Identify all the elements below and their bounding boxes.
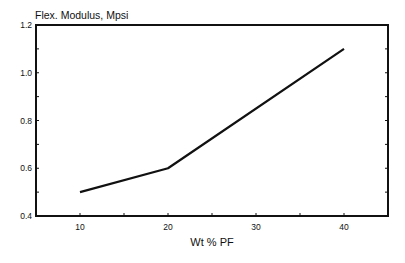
x-tick-label: 30 [251, 222, 261, 232]
y-tick-label: 0.6 [20, 163, 32, 173]
line-chart: 0.40.60.81.01.210203040 [0, 0, 405, 263]
x-tick-label: 40 [339, 222, 349, 232]
x-tick-label: 20 [163, 222, 173, 232]
y-tick-label: 1.0 [20, 68, 32, 78]
y-tick-label: 1.2 [20, 20, 32, 30]
x-axis-label: Wt % PF [0, 236, 405, 248]
x-tick-label: 10 [75, 222, 85, 232]
y-tick-label: 0.4 [20, 211, 32, 221]
y-tick-label: 0.8 [20, 116, 32, 126]
data-line [80, 49, 344, 192]
